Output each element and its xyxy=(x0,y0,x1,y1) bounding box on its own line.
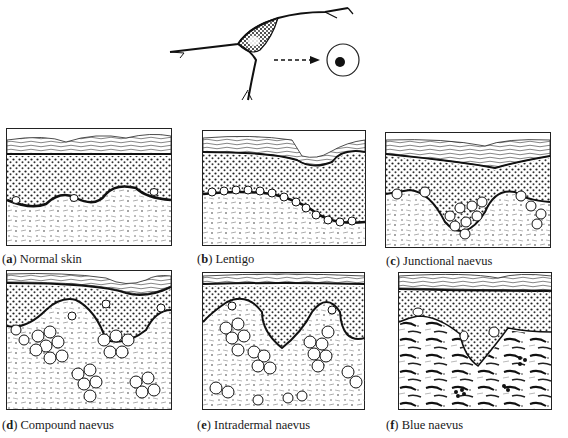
naevus-cell-icon xyxy=(327,44,359,76)
caption-junctional-naevus: (c) Junctional naevus xyxy=(386,254,492,268)
panel-title: Blue naevus xyxy=(399,418,464,432)
caption-compound-naevus: (d) Compound naevus xyxy=(2,418,114,432)
panel-normal-skin xyxy=(6,128,172,246)
panel-junctional-naevus xyxy=(385,132,551,248)
panel-title: Junctional naevus xyxy=(400,254,492,268)
caption-intradermal-naevus: (e) Intradermal naevus xyxy=(197,418,310,432)
panel-compound-naevus xyxy=(6,270,172,410)
melanocyte-illustration xyxy=(160,0,380,110)
dendritic-melanocyte-icon xyxy=(170,8,353,100)
panel-intradermal-naevus xyxy=(202,272,365,410)
panel-title: Compound naevus xyxy=(17,418,114,432)
panel-title: Lentigo xyxy=(212,252,254,266)
panel-lentigo xyxy=(202,130,366,246)
panel-title: Normal skin xyxy=(17,252,82,266)
caption-lentigo: (b) Lentigo xyxy=(197,252,254,266)
panel-blue-naevus xyxy=(398,272,552,410)
panel-title: Intradermal naevus xyxy=(211,418,310,432)
caption-blue-naevus: (f) Blue naevus xyxy=(386,418,463,432)
caption-normal-skin: (a) Normal skin xyxy=(2,252,82,266)
